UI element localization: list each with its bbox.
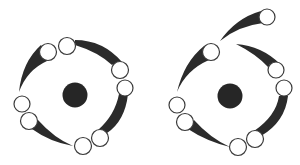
right-orb (259, 9, 275, 25)
left-orb (75, 138, 92, 155)
left-orb (40, 44, 57, 61)
right-tail-flung-out (220, 11, 263, 41)
right-nucleus (218, 84, 243, 109)
right-tail-lower-left (188, 120, 230, 147)
left-tail-lower-right (98, 94, 128, 133)
right-orb (230, 139, 247, 156)
right-orb (169, 97, 185, 113)
left-orb (112, 62, 129, 79)
orbital-diagrams (0, 0, 300, 165)
left-orb (92, 130, 109, 147)
left-orb (21, 113, 38, 130)
right-tail-lower-right (254, 96, 288, 136)
left-nucleus (63, 83, 88, 108)
right-orb (247, 131, 264, 148)
left-orb (117, 80, 133, 96)
left-orb (59, 38, 76, 55)
right-orb (177, 114, 194, 131)
right-orb (268, 62, 284, 78)
right-orbital-diagram (169, 9, 292, 156)
left-tail-lower-left (32, 120, 73, 146)
right-orb (203, 44, 220, 61)
left-orb (14, 96, 30, 112)
left-orbital-diagram (14, 38, 133, 155)
left-tail-upper-right (75, 40, 122, 65)
right-orb (276, 80, 292, 96)
